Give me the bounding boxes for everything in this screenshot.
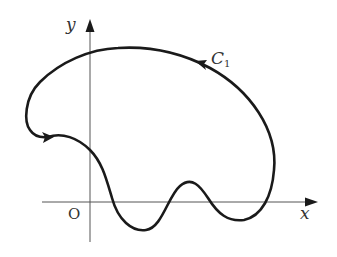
curve-c1 xyxy=(26,48,274,231)
curve-label: C1 xyxy=(211,50,230,67)
x-axis-label: x xyxy=(300,205,310,222)
curve-label-main: C xyxy=(211,48,224,68)
y-axis-arrow-icon xyxy=(86,19,95,32)
y-axis-label: y xyxy=(66,16,76,33)
origin-label: O xyxy=(68,207,80,222)
diagram-figure: y O x C1 xyxy=(0,0,337,257)
axes xyxy=(42,19,318,242)
diagram-svg xyxy=(0,0,337,257)
curve-label-subscript: 1 xyxy=(224,58,230,69)
